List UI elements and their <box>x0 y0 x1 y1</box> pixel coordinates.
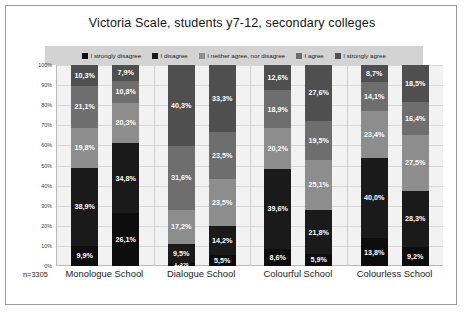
stacked-bar[interactable]: 18,5%16,4%27,5%28,3%9,2% <box>402 65 429 266</box>
bar-segment-label: 1,3% <box>174 263 189 266</box>
bar-segment[interactable]: 9,2% <box>402 247 429 266</box>
bar-segment[interactable]: 19,8% <box>71 128 98 168</box>
y-axis-tick-label: 50% <box>41 163 52 169</box>
bar-segment[interactable]: 40,3% <box>168 65 195 146</box>
legend-item[interactable]: I strongly agree <box>335 52 386 59</box>
bar-segment[interactable]: 9,5% <box>168 244 195 263</box>
y-axis-tick-label: 80% <box>41 102 52 108</box>
bar-group: 8,7%14,1%23,4%40,0%13,8%18,5%16,4%27,5%2… <box>347 65 444 266</box>
y-axis-tick-label: 20% <box>41 223 52 229</box>
stacked-bar[interactable]: 8,7%14,1%23,4%40,0%13,8% <box>361 65 388 266</box>
bar-segment[interactable]: 23,5% <box>209 179 236 226</box>
x-axis: n=3305 Monologue SchoolDialogue SchoolCo… <box>23 268 443 286</box>
bar-segment[interactable]: 19,5% <box>305 121 332 160</box>
bar-group: 12,6%18,9%20,2%39,6%8,6%27,6%19,5%25,1%2… <box>250 65 347 266</box>
bar-segment-label: 17,2% <box>171 223 191 230</box>
bar-segment[interactable]: 34,8% <box>112 143 139 213</box>
bar-segment[interactable]: 27,6% <box>305 65 332 121</box>
bar-segment[interactable]: 39,6% <box>264 169 291 249</box>
bar-segment[interactable]: 33,3% <box>209 65 236 132</box>
bar-segment-label: 9,9% <box>77 252 93 259</box>
x-axis-category-label: Colourful School <box>250 268 347 279</box>
bar-segment-label: 12,6% <box>268 74 288 81</box>
stacked-bar[interactable]: 40,3%31,6%17,2%9,5%1,3% <box>168 65 195 266</box>
bar-segment-label: 31,6% <box>171 174 191 181</box>
bar-segment[interactable]: 23,4% <box>361 111 388 158</box>
stacked-bar[interactable]: 7,9%10,8%20,3%34,8%26,1% <box>112 65 139 266</box>
bar-segment[interactable]: 5,9% <box>305 254 332 266</box>
bar-groups: 10,3%21,1%19,8%38,9%9,9%7,9%10,8%20,3%34… <box>57 65 443 266</box>
chart-frame: Victoria Scale, students y7-12, secondar… <box>5 5 457 305</box>
bar-segment[interactable]: 31,6% <box>168 146 195 210</box>
bar-segment-label: 19,5% <box>309 137 329 144</box>
legend-item[interactable]: I agree <box>296 52 324 59</box>
x-axis-category-label: Monologue School <box>56 268 153 279</box>
bar-segment[interactable]: 10,3% <box>71 65 98 86</box>
legend-item[interactable]: I disagree <box>152 52 188 59</box>
bar-segment[interactable]: 1,3% <box>168 263 195 266</box>
bar-segment-label: 14,1% <box>364 93 384 100</box>
bar-segment-label: 20,2% <box>268 145 288 152</box>
bar-segment-label: 18,5% <box>405 80 425 87</box>
bar-segment[interactable]: 18,9% <box>264 90 291 128</box>
bar-segment-label: 7,9% <box>118 69 134 76</box>
bar-segment-label: 8,7% <box>366 70 382 77</box>
bar-segment[interactable]: 7,9% <box>112 65 139 81</box>
bar-segment[interactable]: 16,4% <box>402 102 429 135</box>
bar-segment-label: 23,4% <box>364 131 384 138</box>
bar-segment[interactable]: 13,8% <box>361 238 388 266</box>
chart-title: Victoria Scale, students y7-12, secondar… <box>6 16 458 30</box>
bar-segment[interactable]: 21,8% <box>305 210 332 254</box>
bar-segment[interactable]: 25,1% <box>305 160 332 211</box>
stacked-bar[interactable]: 12,6%18,9%20,2%39,6%8,6% <box>264 65 291 266</box>
bar-segment[interactable]: 12,6% <box>264 65 291 90</box>
y-axis-tick-label: 30% <box>41 203 52 209</box>
legend-item[interactable]: I strongly disagree <box>82 52 141 59</box>
bar-segment[interactable]: 8,6% <box>264 249 291 266</box>
bar-segment[interactable]: 27,5% <box>402 135 429 190</box>
bar-segment-label: 40,0% <box>364 194 384 201</box>
bar-segment-label: 19,8% <box>75 144 95 151</box>
bar-segment[interactable]: 9,9% <box>71 246 98 266</box>
bar-segment-label: 21,1% <box>75 103 95 110</box>
bar-segment[interactable]: 17,2% <box>168 210 195 245</box>
bar-group: 10,3%21,1%19,8%38,9%9,9%7,9%10,8%20,3%34… <box>57 65 154 266</box>
stacked-bar[interactable]: 27,6%19,5%25,1%21,8%5,9% <box>305 65 332 266</box>
plot-area: 10,3%21,1%19,8%38,9%9,9%7,9%10,8%20,3%34… <box>56 65 443 266</box>
bar-segment[interactable]: 21,1% <box>71 86 98 128</box>
stacked-bar[interactable]: 10,3%21,1%19,8%38,9%9,9% <box>71 65 98 266</box>
bar-segment[interactable]: 26,1% <box>112 213 139 266</box>
bar-segment-label: 38,9% <box>75 203 95 210</box>
bar-segment-label: 25,1% <box>309 181 329 188</box>
stacked-bar[interactable]: 33,3%23,5%23,5%14,2%5,5% <box>209 65 236 266</box>
plot-wrapper: 100%90%80%70%60%50%40%30%20%10%0% 10,3%2… <box>23 65 443 266</box>
bar-group: 40,3%31,6%17,2%9,5%1,3%33,3%23,5%23,5%14… <box>154 65 251 266</box>
bar-segment[interactable]: 18,5% <box>402 65 429 102</box>
legend-item[interactable]: I neither agree, nor disagree <box>199 52 285 59</box>
y-axis-tick-label: 40% <box>41 183 52 189</box>
bar-segment-label: 10,8% <box>116 88 136 95</box>
square-marker-icon <box>296 53 302 59</box>
bar-segment[interactable]: 14,2% <box>209 226 236 255</box>
bar-segment[interactable]: 28,3% <box>402 191 429 248</box>
bar-segment-label: 16,4% <box>405 115 425 122</box>
bar-segment-label: 18,9% <box>268 106 288 113</box>
bar-segment[interactable]: 8,7% <box>361 65 388 82</box>
bar-segment-label: 27,5% <box>405 159 425 166</box>
bar-segment[interactable]: 38,9% <box>71 168 98 246</box>
y-axis-tick-label: 60% <box>41 142 52 148</box>
bar-segment[interactable]: 14,1% <box>361 82 388 110</box>
bar-segment-label: 23,5% <box>212 152 232 159</box>
bar-segment[interactable]: 10,8% <box>112 81 139 103</box>
bar-segment[interactable]: 20,3% <box>112 103 139 144</box>
bar-segment[interactable]: 40,0% <box>361 158 388 238</box>
bar-segment-label: 21,8% <box>309 229 329 236</box>
legend-item-label: I strongly agree <box>343 52 386 59</box>
bar-segment[interactable]: 23,5% <box>209 132 236 179</box>
bar-segment-label: 13,8% <box>364 249 384 256</box>
x-category-labels: Monologue SchoolDialogue SchoolColourful… <box>56 268 443 279</box>
bar-segment[interactable]: 5,5% <box>209 255 236 266</box>
bar-segment[interactable]: 20,2% <box>264 128 291 169</box>
sample-size-label: n=3305 <box>23 270 48 279</box>
legend-item-label: I strongly disagree <box>91 52 142 59</box>
